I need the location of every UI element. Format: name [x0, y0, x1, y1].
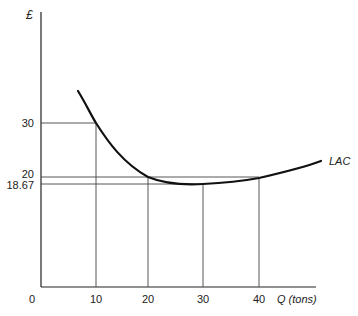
x-tick-20: 20 [136, 294, 160, 305]
y-tick-18-67: 18.67 [4, 180, 34, 191]
x-tick-10: 10 [84, 294, 108, 305]
y-axis-label: £ [26, 9, 33, 21]
lac-curve [78, 91, 321, 184]
x-tick-40: 40 [247, 294, 271, 305]
lac-chart [0, 0, 358, 316]
reference-lines [41, 123, 259, 287]
y-tick-30: 30 [4, 118, 34, 129]
x-tick-0: 0 [20, 294, 44, 305]
x-tick-30: 30 [191, 294, 215, 305]
curve-label-lac: LAC [329, 156, 350, 167]
x-axis-label: Q (tons) [277, 294, 317, 305]
